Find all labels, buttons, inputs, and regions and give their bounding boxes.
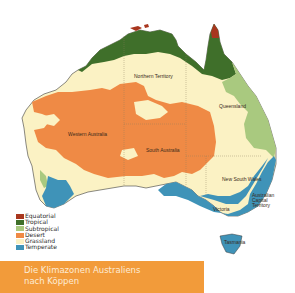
- caption-text: Die Klimazonen Australiens nach Köppen: [24, 265, 140, 287]
- label-act: Australian Capital Territory: [252, 193, 276, 208]
- legend-item-temperate: Temperate: [16, 244, 59, 250]
- label-new-south-wales: New South Wales: [222, 177, 262, 182]
- label-western-australia: Western Australia: [68, 132, 107, 137]
- caption-line-2: nach Köppen: [24, 276, 140, 287]
- zone-equatorial: [211, 24, 219, 38]
- swatch-temperate: [16, 245, 24, 250]
- label-tasmania: Tasmania: [224, 240, 245, 245]
- swatch-desert: [16, 233, 24, 238]
- caption-banner: Die Klimazonen Australiens nach Köppen: [0, 261, 204, 293]
- swatch-subtropical: [16, 226, 24, 231]
- label-queensland: Queensland: [219, 104, 246, 109]
- label-northern-territory: Northern Territory: [134, 74, 173, 79]
- label-south-australia: South Australia: [146, 148, 180, 153]
- caption-line-1: Die Klimazonen Australiens: [24, 265, 140, 276]
- swatch-tropical: [16, 220, 24, 225]
- swatch-grassland: [16, 239, 24, 244]
- swatch-equatorial: [16, 214, 24, 219]
- legend: Equatorial Tropical Subtropical Desert G…: [16, 213, 59, 251]
- label-victoria: Victoria: [213, 207, 230, 212]
